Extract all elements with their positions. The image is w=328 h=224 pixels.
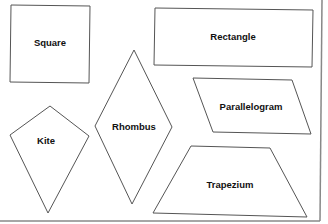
rectangle-shape: Rectangle [154,8,313,67]
trapezium-shape: Trapezium [153,146,307,217]
square-shape: Square [10,5,90,83]
parallelogram-shape: Parallelogram [193,78,311,134]
quadrilaterals-diagram: Square Rectangle Rhombus Kite Parallelog… [0,0,328,224]
kite-label: Kite [37,135,55,146]
square-label: Square [34,37,66,48]
parallelogram-label: Parallelogram [220,101,283,112]
trapezium-label: Trapezium [207,179,254,190]
rhombus-label: Rhombus [112,121,156,132]
kite-shape: Kite [10,106,89,213]
frame-right-border [320,0,322,221]
rhombus-shape: Rhombus [95,50,172,204]
rectangle-label: Rectangle [210,31,255,42]
